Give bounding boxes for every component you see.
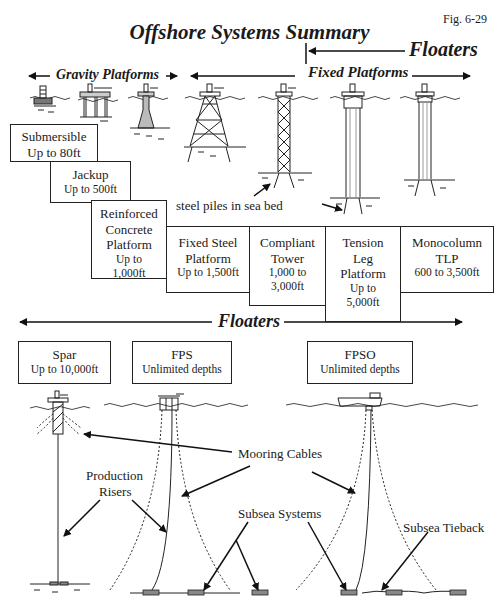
callout-production-risers-line1: Production [86,468,143,484]
platform-name-line: TLP [401,251,493,267]
platform-box-jackup: Jackup Up to 500ft [50,161,131,203]
platform-depth-line: 3,000ft [250,280,325,294]
floater-depth: Unlimited depths [133,363,231,377]
compliant-tower-icon [258,84,312,188]
platform-depth-line: 1,000ft [92,267,166,281]
platform-box-reinforced-concrete: Reinforced Concrete Platform Up to 1,000… [91,200,167,279]
floater-box-fpso: FPSO Unlimited depths [307,341,413,384]
platform-depth: Up to 500ft [51,183,130,197]
platform-name-line: Monocolumn [401,235,493,251]
platform-name-line: Platform [326,266,400,282]
section-label-fixed: Fixed Platforms [308,64,408,81]
callout-steel-piles: steel piles in sea bed [176,198,283,214]
floater-box-spar: Spar Up to 10,000ft [18,341,111,384]
platform-name-line: Fixed Steel [167,235,249,251]
platform-depth: Up to 80ft [11,145,97,161]
section-label-floaters-top: Floaters [409,38,478,61]
fpso-icon [296,393,460,593]
platform-name-line: Platform [167,251,249,267]
platform-box-tension-leg: Tension Leg Platform Up to 5,000ft [325,226,401,322]
callout-production-risers-line2: Risers [99,484,132,500]
platform-depth: 600 to 3,500ft [401,266,493,280]
platform-box-monocolumn-tlp: Monocolumn TLP 600 to 3,500ft [400,226,494,293]
callout-subsea-tieback: Subsea Tieback [403,520,484,536]
sea-surface-bottom [30,404,478,410]
platform-depth-line: 1,000 to [250,266,325,280]
floater-depth: Up to 10,000ft [19,363,110,377]
tension-leg-platform-icon [330,84,380,214]
subsea-units [143,590,466,595]
platform-name: Submersible [11,129,97,145]
platform-depth-line: Up to [92,253,166,267]
concrete-gravity-icon [130,84,170,139]
floater-name: FPSO [308,347,412,363]
fixed-steel-jacket-icon [184,84,246,162]
floater-depth: Unlimited depths [308,363,412,377]
monocolumn-tlp-icon [404,84,455,196]
floater-name: FPS [133,347,231,363]
platform-name-line: Leg [326,251,400,267]
submersible-icon [34,86,56,112]
platform-depth-line: 5,000ft [326,296,400,310]
section-label-gravity: Gravity Platforms [56,67,159,83]
platform-name-line: Reinforced [92,206,166,222]
spar-icon [30,391,90,592]
platform-box-submersible: Submersible Up to 80ft [10,124,98,162]
platform-depth: Up to 1,500ft [167,266,249,280]
platform-name-line: Tower [250,251,325,267]
platform-name: Jackup [51,167,130,183]
floater-name: Spar [19,347,110,363]
callout-mooring-cables: Mooring Cables [238,446,322,462]
floaters-top-arrow [306,43,405,64]
platform-box-fixed-steel: Fixed Steel Platform Up to 1,500ft [166,226,250,293]
platform-box-compliant-tower: Compliant Tower 1,000 to 3,000ft [249,226,326,306]
platform-name-line: Compliant [250,235,325,251]
platform-name-line: Platform [92,237,166,253]
platform-name-line: Tension [326,235,400,251]
floater-box-fps: FPS Unlimited depths [132,341,232,384]
platform-name-line: Concrete [92,222,166,238]
section-label-floaters-bottom: Floaters [218,311,280,332]
callout-subsea-systems: Subsea Systems [238,506,321,522]
platform-depth-line: Up to [326,282,400,296]
jackup-icon [80,84,112,121]
